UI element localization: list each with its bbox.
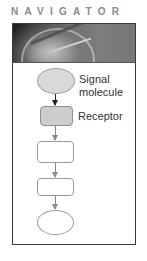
navigator-title: NAVIGATOR xyxy=(11,6,137,18)
signal-molecule-label-line2: molecule xyxy=(79,86,123,99)
arrow-step4-to-response xyxy=(55,196,56,209)
step-4-node xyxy=(37,178,74,196)
response-node xyxy=(37,210,74,235)
arrow-step3-to-step4 xyxy=(55,163,56,177)
arrow-signal-to-receptor xyxy=(55,94,56,105)
step-3-node xyxy=(37,141,74,163)
compass-icon xyxy=(13,24,135,63)
receptor-node xyxy=(40,106,73,126)
signal-molecule-label-line1: Signal xyxy=(79,73,110,86)
navigator-panel xyxy=(12,23,136,245)
arrow-receptor-to-step3 xyxy=(55,126,56,140)
signal-molecule-node xyxy=(37,68,75,94)
receptor-label: Receptor xyxy=(78,110,123,123)
